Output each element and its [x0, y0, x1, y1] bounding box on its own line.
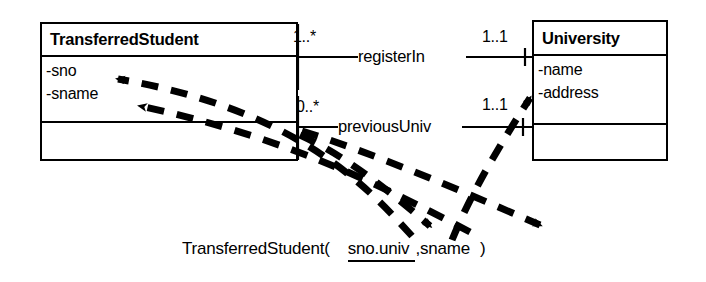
schema-close-paren: ): [470, 239, 485, 259]
attribute-sname: -sname: [46, 82, 296, 105]
class-name-university: University: [534, 22, 666, 56]
attribute-name: -name: [538, 58, 666, 81]
multiplicity-registerin-target: 1..1: [482, 28, 508, 46]
class-operations-transferred-student: [42, 123, 296, 160]
association-label-previousuniv: previousUniv: [338, 117, 431, 136]
class-attributes-transferred-student: -sno -sname: [42, 57, 296, 123]
schema-primary-key: sno.univ: [348, 239, 416, 262]
association-label-registerin: registerIn: [358, 47, 425, 66]
class-operations-university: [534, 125, 666, 160]
class-name-transferred-student: TransferredStudent: [42, 24, 296, 57]
multiplicity-previousuniv-source: 0..*: [296, 98, 319, 116]
class-box-university[interactable]: University -name -address: [532, 20, 668, 161]
diagram-canvas: TransferredStudent -sno -sname Universit…: [0, 0, 706, 282]
relational-schema: TransferredStudent( sno.univ ,sname ): [182, 239, 485, 262]
class-attributes-university: -name -address: [534, 56, 666, 125]
attribute-address: -address: [538, 81, 666, 104]
multiplicity-registerin-source: 1..*: [293, 28, 316, 46]
mapping-arrow-univ: [452, 98, 530, 240]
class-box-transferred-student[interactable]: TransferredStudent -sno -sname: [40, 22, 298, 161]
mapping-arrow-key-down: [300, 135, 430, 226]
attribute-sno: -sno: [46, 59, 296, 82]
multiplicity-previousuniv-target: 1..1: [482, 96, 508, 114]
mapping-arrow-attr-down: [302, 131, 540, 225]
schema-relation-name: TransferredStudent(: [182, 239, 330, 259]
schema-attributes: ,sname: [415, 239, 470, 259]
